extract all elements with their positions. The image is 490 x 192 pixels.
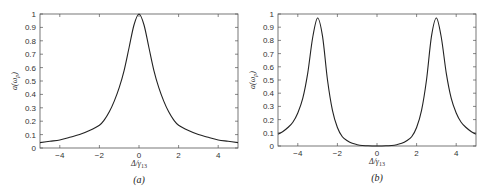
y-tick-label: 0.7 [263, 50, 275, 59]
y-axis-ticks: 00.10.20.30.40.50.60.70.80.91 [25, 10, 238, 153]
x-tick-label: 4 [216, 151, 221, 160]
x-tick-label: −2 [95, 151, 105, 160]
y-tick-label: 0.6 [263, 63, 275, 72]
y-axis-ticks: 00.10.20.30.40.50.60.70.80.91 [263, 10, 476, 151]
y-tick-label: 0 [32, 144, 37, 153]
y-tick-label: 0.8 [263, 36, 275, 45]
x-tick-label: 2 [176, 151, 181, 160]
x-tick-label: −4 [293, 149, 303, 158]
x-tick-label: −2 [333, 149, 343, 158]
x-axis-label: Δ/γ13 [368, 157, 385, 167]
x-tick-label: 2 [414, 149, 419, 158]
y-tick-label: 0.4 [263, 89, 275, 98]
x-tick-label: −4 [55, 151, 65, 160]
y-tick-label: 1 [32, 10, 37, 19]
data-curve [40, 14, 238, 143]
x-axis-label: Δ/γ13 [130, 159, 147, 169]
y-tick-label: 0.5 [263, 76, 275, 85]
y-tick-label: 1 [270, 10, 275, 19]
x-axis-ticks: −4−2024 [293, 14, 459, 158]
plot-frame [40, 14, 238, 148]
panel-caption: (a) [133, 174, 145, 186]
y-tick-label: 0.7 [25, 50, 37, 59]
y-axis-label: a(ωp) [10, 72, 20, 90]
y-axis-label: a(ωp) [248, 71, 258, 89]
y-tick-label: 0.5 [25, 77, 37, 86]
x-tick-label: 4 [454, 149, 459, 158]
x-axis-ticks: −4−2024 [55, 14, 221, 160]
y-tick-label: 0.3 [263, 102, 275, 111]
y-tick-label: 0.2 [263, 116, 275, 125]
panel-a: 00.10.20.30.40.50.60.70.80.91 −4−2024 a(… [10, 10, 238, 186]
panel-caption: (b) [371, 172, 383, 184]
y-tick-label: 0.9 [263, 23, 275, 32]
y-tick-label: 0.3 [25, 104, 37, 113]
data-curve [278, 18, 476, 146]
y-tick-label: 0.2 [25, 117, 37, 126]
plot-frame [278, 14, 476, 146]
panel-b: 00.10.20.30.40.50.60.70.80.91 −4−2024 a(… [248, 10, 476, 184]
y-tick-label: 0.9 [25, 23, 37, 32]
figure: 00.10.20.30.40.50.60.70.80.91 −4−2024 a(… [0, 0, 490, 192]
y-tick-label: 0.1 [263, 129, 275, 138]
y-tick-label: 0.6 [25, 64, 37, 73]
y-tick-label: 0.4 [25, 90, 37, 99]
y-tick-label: 0.8 [25, 37, 37, 46]
y-tick-label: 0.1 [25, 131, 37, 140]
y-tick-label: 0 [270, 142, 275, 151]
